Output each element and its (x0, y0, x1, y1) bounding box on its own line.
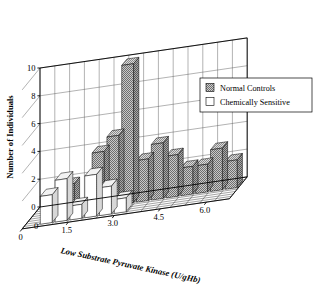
x-axis-title: Low Substrate Pyruvate Kinase (U/gHb) (59, 245, 202, 285)
y-tick-label: 0 (31, 202, 35, 212)
legend-label-chemically-sensitive: Chemically Sensitive (220, 98, 290, 107)
white-swatch (206, 98, 214, 106)
x-tick-label: 3.0 (107, 218, 118, 228)
y-tick-label: 2 (31, 174, 35, 184)
chart-root: 024681001.53.04.56.0Number of Individual… (0, 0, 319, 303)
x-tick-label: 0 (19, 232, 23, 242)
y-tick-label: 10 (27, 63, 36, 73)
x-origin-label: 0 (34, 221, 38, 231)
bar-normal-controls-side (134, 57, 139, 202)
bar-normal-controls-side (222, 142, 227, 190)
bar-chemically-sensitive-side (67, 171, 73, 220)
y-axis-title: Number of Individuals (5, 95, 15, 179)
bar-chart-3d: 024681001.53.04.56.0Number of Individual… (0, 0, 319, 303)
checker-swatch (206, 84, 214, 92)
y-tick-label: 6 (31, 119, 35, 129)
x-tick-label: 1.5 (61, 225, 72, 235)
x-tick-label: 4.5 (153, 212, 164, 222)
chart-legend: Normal Controls Chemically Sensitive (200, 78, 312, 112)
legend-label-normal-controls: Normal Controls (220, 84, 275, 93)
bar-chemically-sensitive-side (97, 167, 103, 216)
y-tick-label: 4 (31, 146, 36, 156)
y-tick-label: 8 (31, 91, 35, 101)
bar-normal-controls-side (148, 152, 153, 200)
bar-chemically-sensitive-face (40, 195, 52, 225)
bar-normal-controls-side (178, 148, 183, 196)
x-tick-label: 6.0 (200, 205, 211, 215)
